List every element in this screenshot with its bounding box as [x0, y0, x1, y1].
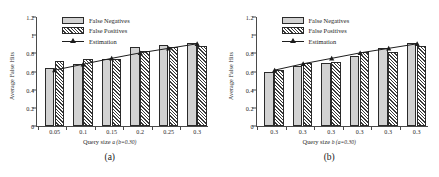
- estimation-polyline: [274, 44, 416, 70]
- panel-a: Average False Hits00.20.40.60.811.20.050…: [0, 0, 220, 177]
- y-tick-label: 0.4: [26, 86, 34, 93]
- legend-item-label: Estimation: [309, 38, 337, 45]
- y-tick-label: 1.2: [26, 14, 34, 21]
- x-tick-label: 0.3: [270, 129, 278, 135]
- y-tick-label: 0: [250, 123, 253, 130]
- y-tick-label: 0.8: [26, 50, 34, 57]
- y-tick-label: 1: [250, 32, 253, 39]
- legend-item-label: False Negatives: [309, 17, 350, 24]
- x-axis-title-condition: (a=0.30): [334, 139, 356, 145]
- y-tick-label: 0.2: [246, 104, 254, 111]
- y-tick-label: 0.6: [26, 68, 34, 75]
- y-axis-title-label: Average False Hits: [9, 52, 15, 100]
- y-tick-label: 0.6: [246, 68, 254, 75]
- x-tick-label: 0.3: [356, 129, 364, 135]
- x-tick-label: 0.15: [106, 129, 117, 135]
- x-axis-title: Query size a (b=0.30): [0, 138, 220, 145]
- y-axis-ticks: 00.20.40.60.811.2: [237, 17, 254, 126]
- x-tick-label: 0.3: [413, 129, 421, 135]
- y-tick-label: 1: [31, 32, 34, 39]
- x-tick-label: 0.3: [384, 129, 392, 135]
- x-axis-line: [36, 126, 208, 127]
- x-axis-title-prefix: Query size: [303, 138, 332, 145]
- legend-swatch-estimation-icon: [62, 38, 84, 45]
- x-tick-label: 0.1: [79, 129, 87, 135]
- plot-area-a: Average False Hits00.20.40.60.811.20.050…: [0, 0, 220, 152]
- x-tick-label: 0.3: [299, 129, 307, 135]
- legend-item-label: False Positives: [89, 27, 127, 34]
- y-tick-label: 1.2: [246, 14, 254, 21]
- legend: False NegativesFalse PositivesEstimation: [62, 15, 130, 47]
- legend-swatch-false-negatives-icon: [62, 17, 84, 24]
- y-axis-title-label: Average False Hits: [229, 52, 235, 100]
- y-tick-label: 0.8: [246, 50, 254, 57]
- estimation-polyline: [55, 44, 198, 70]
- x-axis-title-condition: (b=0.30): [115, 139, 137, 145]
- y-tick-label: 0: [31, 123, 34, 130]
- x-axis-line: [256, 126, 428, 127]
- y-tick-label: 0.2: [26, 104, 34, 111]
- x-tick-label: 0.3: [327, 129, 335, 135]
- x-tick-label: 0.25: [163, 129, 174, 135]
- legend-swatch-false-negatives-icon: [282, 17, 304, 24]
- x-axis-title: Query size b (a=0.30): [220, 138, 439, 145]
- legend-swatch-false-positives-icon: [62, 27, 84, 34]
- legend-item: False Negatives: [62, 15, 130, 26]
- x-axis-title-prefix: Query size: [83, 138, 112, 145]
- legend-item: Estimation: [62, 36, 130, 47]
- x-tick-label: 0.05: [49, 129, 60, 135]
- legend-item: False Positives: [62, 26, 130, 37]
- legend-item: False Positives: [282, 26, 350, 37]
- legend-item-label: False Positives: [309, 27, 347, 34]
- legend-swatch-estimation-icon: [282, 38, 304, 45]
- legend-item-label: False Negatives: [89, 17, 130, 24]
- plot-area-b: Average False Hits00.20.40.60.811.20.30.…: [220, 0, 439, 152]
- y-tick-label: 0.4: [246, 86, 254, 93]
- panel-caption: (a): [0, 152, 220, 162]
- legend-item-label: Estimation: [89, 38, 117, 45]
- panel-b: Average False Hits00.20.40.60.811.20.30.…: [220, 0, 439, 177]
- x-tick-label: 0.2: [136, 129, 144, 135]
- legend-swatch-false-positives-icon: [282, 27, 304, 34]
- legend: False NegativesFalse PositivesEstimation: [282, 15, 350, 47]
- x-tick-label: 0.3: [193, 129, 201, 135]
- figure-two-panel-bar-charts: Average False Hits00.20.40.60.811.20.050…: [0, 0, 439, 177]
- legend-item: False Negatives: [282, 15, 350, 26]
- legend-item: Estimation: [282, 36, 350, 47]
- panel-caption: (b): [220, 152, 439, 162]
- y-axis-ticks: 00.20.40.60.811.2: [17, 17, 34, 126]
